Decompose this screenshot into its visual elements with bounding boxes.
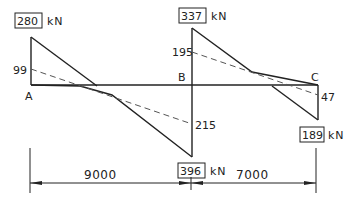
value-b-left-max: 396 (180, 165, 201, 178)
shear-line-b (192, 28, 318, 85)
arrow-a (30, 181, 42, 185)
value-c-dashed: 47 (321, 91, 335, 104)
shear-line-ab-negative (31, 85, 192, 157)
arrow-b-left (179, 181, 191, 185)
unit-b-right: kN (211, 10, 228, 23)
unit-a: kN (47, 15, 64, 28)
shear-line-a (31, 37, 97, 86)
span-ab-length: 9000 (84, 168, 117, 182)
value-b-left-dashed: 215 (195, 119, 216, 132)
value-c-max: 189 (302, 129, 323, 142)
unit-b-left: kN (210, 165, 227, 178)
dashed-line-bc (192, 52, 318, 95)
arrow-b-right (191, 181, 203, 185)
value-a-max: 280 (17, 15, 38, 28)
value-a-dashed: 99 (13, 64, 27, 77)
span-bc-length: 7000 (236, 168, 269, 182)
support-b-label: B (178, 71, 186, 84)
unit-c: kN (328, 129, 345, 142)
value-b-right-max: 337 (181, 10, 202, 23)
shear-line-bc-negative (272, 86, 318, 120)
support-c-label: C (311, 71, 319, 84)
dashed-line-ab (31, 69, 192, 124)
shear-force-diagram: A B C 280 kN 99 337 kN 195 215 396 kN 47… (0, 0, 355, 207)
value-b-right-dashed: 195 (172, 46, 193, 59)
support-a-label: A (25, 90, 33, 103)
arrow-c (304, 181, 316, 185)
